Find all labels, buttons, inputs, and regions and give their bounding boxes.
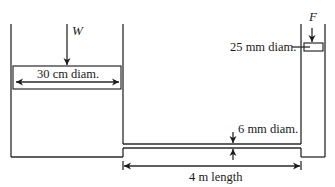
connecting-pipe: [123, 144, 301, 157]
small-piston-diameter-label: 25 mm diam.: [230, 40, 296, 54]
pipe-length-dimension: [123, 161, 301, 170]
pipe-diameter-label: 6 mm diam.: [238, 122, 298, 136]
w-label: W: [72, 23, 84, 38]
pipe-length-label: 4 m length: [189, 170, 243, 184]
small-cylinder: [301, 24, 325, 157]
hydraulic-diagram: W F 30 cm diam. 25 mm diam. 6 mm diam. 4…: [0, 0, 335, 187]
f-label: F: [308, 9, 318, 24]
large-piston-diameter-label: 30 cm diam.: [37, 67, 99, 81]
